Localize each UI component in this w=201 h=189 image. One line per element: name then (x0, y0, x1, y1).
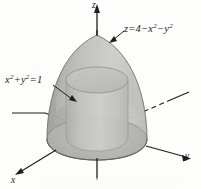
axis-y-line (146, 146, 186, 157)
scan-artifact-band (40, 178, 180, 186)
cylinder-equals: = (30, 74, 37, 85)
axis-label-x: x (11, 176, 15, 186)
axis-x-line (20, 150, 56, 172)
paraboloid-equals: = (128, 23, 135, 34)
cylinder-plus: + (14, 74, 21, 85)
axis-x-arrowhead (15, 168, 24, 175)
axis-label-z: z (92, 1, 96, 11)
cylinder-equation-label: x2+y2=1 (5, 75, 42, 86)
axis-label-y: y (185, 152, 189, 162)
cylinder-rhs: 1 (37, 74, 42, 85)
axis-x-negative-ray (168, 92, 189, 101)
paraboloid-leader-arrowhead (109, 36, 117, 43)
paraboloid-exp-y: 2 (169, 22, 173, 30)
paraboloid-front-glaze (47, 35, 147, 160)
math-figure-3d: z=4−x2−y2 x2+y2=1 z y x (0, 0, 201, 189)
paraboloid-equation-label: z=4−x2−y2 (124, 24, 173, 35)
